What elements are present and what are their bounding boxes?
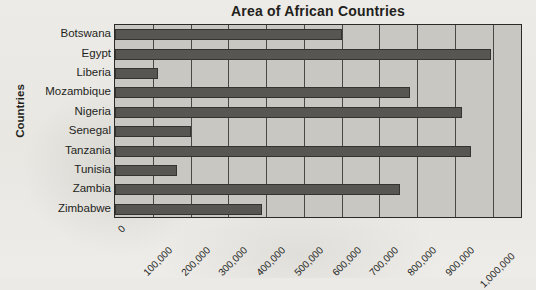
x-tick-label: 200,000 (204, 219, 237, 252)
bar (115, 126, 191, 137)
chart-title: Area of African Countries (114, 2, 522, 20)
category-label: Botswana (8, 27, 111, 40)
x-tick-label: 900,000 (469, 219, 502, 252)
category-label: Egypt (8, 47, 111, 60)
bar (115, 68, 158, 79)
x-tick-label: 600,000 (355, 219, 388, 252)
bar (115, 29, 342, 40)
x-tick-label: 800,000 (431, 219, 464, 252)
x-tick-label: 400,000 (280, 219, 313, 252)
x-axis-tick-labels: 0100,000200,000300,000400,000500,000600,… (114, 219, 534, 278)
category-label: Mozambique (8, 85, 111, 98)
category-label: Nigeria (8, 105, 111, 118)
bar (115, 204, 262, 215)
bar (115, 87, 410, 98)
x-tick-label: 0 (120, 219, 132, 231)
x-tick-label: 1,000,000 (509, 219, 536, 258)
bar (115, 107, 462, 118)
category-label: Senegal (8, 124, 111, 137)
bar (115, 146, 471, 157)
category-label: Tunisia (8, 163, 111, 176)
x-tick-label: 500,000 (317, 219, 350, 252)
x-tick-label: 100,000 (166, 219, 199, 252)
y-axis-category-labels: BotswanaEgyptLiberiaMozambiqueNigeriaSen… (8, 24, 111, 218)
category-label: Tanzania (8, 144, 111, 157)
category-label: Zimbabwe (8, 202, 111, 215)
category-label: Liberia (8, 66, 111, 79)
category-label: Zambia (8, 182, 111, 195)
x-tick-label: 300,000 (242, 219, 275, 252)
bar (115, 49, 491, 60)
plot-area (114, 24, 522, 218)
x-tick-label: 700,000 (393, 219, 426, 252)
bars-layer (115, 25, 521, 217)
bar (115, 165, 177, 176)
bar (115, 184, 400, 195)
